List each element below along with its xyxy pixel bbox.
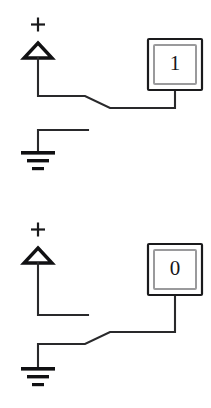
voltage-source-triangle-icon (24, 43, 52, 58)
circuit-diagram-canvas: 1 0 (0, 0, 211, 408)
logic-state-value: 1 (170, 51, 181, 75)
circuit-logic-high: 1 (0, 0, 211, 204)
polarity-plus-icon (31, 18, 45, 32)
logic-state-box-high: 1 (148, 39, 202, 90)
ground-to-box-wire (38, 294, 175, 368)
source-stub-wire (38, 263, 88, 315)
logic-state-box-low: 0 (148, 244, 202, 295)
circuit-logic-low: 0 (0, 204, 211, 408)
ground-stub-wire (38, 130, 88, 152)
ground-symbol-icon (21, 151, 55, 170)
ground-symbol-icon (21, 367, 55, 386)
logic-state-value: 0 (170, 256, 181, 280)
polarity-plus-icon (31, 223, 45, 237)
voltage-source-triangle-icon (24, 248, 52, 263)
